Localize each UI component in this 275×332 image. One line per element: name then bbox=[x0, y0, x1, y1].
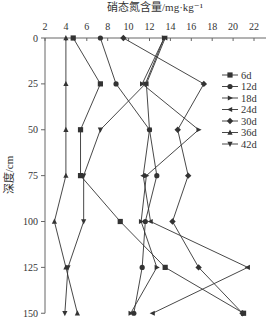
x-tick-label: 2 bbox=[43, 21, 48, 32]
legend-item-18d: 18d bbox=[222, 93, 258, 104]
y-axis-title: 深度/cm bbox=[2, 155, 15, 194]
legend-item-30d: 30d bbox=[222, 116, 258, 127]
y-tick-label: 25 bbox=[28, 78, 38, 89]
legend-label: 12d bbox=[241, 81, 258, 92]
x-tick-label: 14 bbox=[165, 21, 175, 32]
legend-item-24d: 24d bbox=[222, 104, 258, 115]
x-axis-title: 硝态氮含量/mg·kg⁻¹ bbox=[107, 0, 203, 13]
legend-item-42d: 42d bbox=[222, 139, 258, 150]
y-tick-label: 75 bbox=[28, 170, 38, 181]
series-42d bbox=[62, 36, 166, 316]
x-tick-label: 20 bbox=[228, 21, 238, 32]
legend-label: 42d bbox=[241, 139, 258, 150]
y-tick-label: 50 bbox=[28, 124, 38, 135]
x-tick-label: 22 bbox=[249, 21, 259, 32]
x-tick-label: 12 bbox=[145, 21, 155, 32]
x-tick-label: 18 bbox=[207, 21, 217, 32]
y-tick-label: 125 bbox=[23, 262, 38, 273]
legend-label: 30d bbox=[241, 116, 258, 127]
legend-label: 6d bbox=[241, 70, 252, 81]
plot-area bbox=[52, 35, 250, 317]
legend-label: 36d bbox=[241, 127, 258, 138]
legend-item-36d: 36d bbox=[222, 127, 258, 138]
axes: 2468101214161820220255075100125150 bbox=[23, 21, 266, 319]
legend-label: 24d bbox=[241, 104, 258, 115]
x-tick-label: 6 bbox=[84, 21, 89, 32]
x-tick-label: 8 bbox=[105, 21, 110, 32]
legend: 6d12d18d24d30d36d42d bbox=[222, 70, 258, 150]
x-tick-label: 4 bbox=[63, 21, 68, 32]
series-36d bbox=[52, 35, 80, 315]
y-tick-label: 150 bbox=[23, 308, 38, 319]
x-tick-label: 10 bbox=[124, 21, 134, 32]
legend-item-12d: 12d bbox=[222, 81, 258, 92]
x-tick-label: 16 bbox=[186, 21, 196, 32]
legend-item-6d: 6d bbox=[222, 70, 252, 81]
y-tick-label: 0 bbox=[33, 33, 38, 44]
y-tick-label: 100 bbox=[23, 216, 38, 227]
series-12d bbox=[98, 35, 160, 315]
legend-label: 18d bbox=[241, 93, 258, 104]
nitrate-depth-chart: 硝态氮含量/mg·kg⁻¹ 24681012141618202202550751… bbox=[0, 0, 275, 332]
series-30d bbox=[120, 35, 246, 317]
